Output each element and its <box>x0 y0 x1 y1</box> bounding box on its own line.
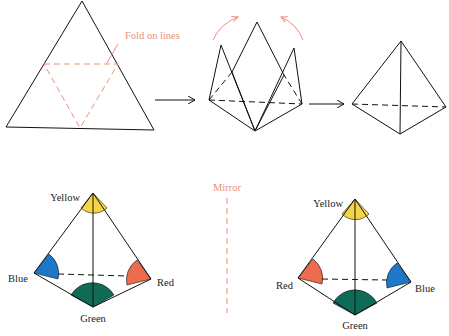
tetrahedron-folding-diagram: Fold on lines Mirror <box>0 0 449 336</box>
right-flap <box>255 48 302 131</box>
hidden-edge-right <box>284 75 302 104</box>
label-red: Red <box>276 280 294 291</box>
label-yellow: Yellow <box>313 198 343 209</box>
annotation-leader-line <box>107 44 118 63</box>
tetrahedron <box>352 41 446 134</box>
label-green: Green <box>80 313 106 324</box>
fold-lines <box>44 64 118 128</box>
folding-net <box>209 17 303 131</box>
flat-triangle-net: Fold on lines <box>6 1 180 130</box>
outer-triangle <box>6 1 154 130</box>
front-edge <box>400 41 401 134</box>
fold-arrow-left <box>213 17 238 40</box>
label-blue: Blue <box>415 283 435 294</box>
colored-tetrahedron-right: Yellow Red Blue Green <box>276 198 435 331</box>
label-green: Green <box>342 320 368 331</box>
fold-arrow-right <box>281 17 303 40</box>
hidden-edge <box>322 279 387 280</box>
mirror-label: Mirror <box>213 182 241 193</box>
hidden-edge <box>352 104 446 107</box>
left-flap <box>209 45 255 131</box>
center-face-top <box>232 22 284 75</box>
label-yellow: Yellow <box>50 192 80 203</box>
hidden-base-edge <box>209 100 302 104</box>
colored-tetrahedron-left: Yellow Blue Red Green <box>8 192 175 324</box>
mirror: Mirror <box>213 182 241 313</box>
label-blue: Blue <box>8 273 28 284</box>
tetrahedron-outline <box>352 41 446 134</box>
yellow-vertex-sector <box>81 193 107 213</box>
label-red: Red <box>157 277 175 288</box>
fold-annotation: Fold on lines <box>125 30 180 41</box>
